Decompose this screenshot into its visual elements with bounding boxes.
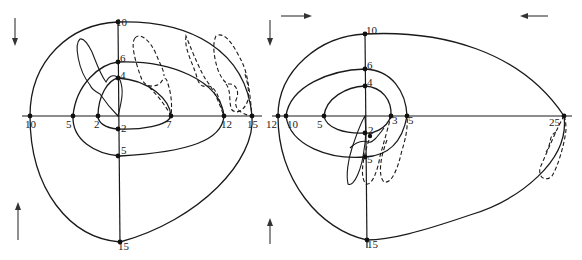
inner-isoline [98, 78, 171, 129]
label-h5-right: 5 [317, 118, 323, 130]
left-panel: 10 5 2 7 12 15 10 6 4 2 5 15 [12, 16, 262, 252]
right-panel: 12 10 5 3 5 25 10 6 4 2 5 15 [266, 13, 572, 250]
dashed-loop-1b [135, 36, 164, 76]
arrow-left-icon [520, 13, 548, 19]
inner-isoline-right [324, 86, 391, 133]
outer-isoline-right [278, 34, 564, 240]
dashed-loop-1 [133, 38, 171, 116]
label-v4: 4 [120, 69, 126, 81]
label-h10: 10 [25, 118, 37, 130]
label-v2-right: 2 [368, 124, 374, 136]
label-v6-right: 6 [367, 59, 373, 71]
label-v6: 6 [120, 52, 126, 64]
label-h12: 12 [221, 118, 232, 130]
diagram-canvas: 10 5 2 7 12 15 10 6 4 2 5 15 [0, 0, 582, 260]
arrow-down-icon [12, 18, 18, 46]
label-h7: 7 [166, 118, 172, 130]
label-v15-right: 15 [367, 238, 379, 250]
arrow-right-icon [281, 13, 312, 19]
label-h15: 15 [247, 118, 259, 130]
middle-isoline-right [286, 69, 407, 157]
label-h10-right: 10 [287, 118, 299, 130]
label-h3-right: 3 [392, 114, 398, 126]
marker-dots [28, 20, 255, 245]
label-h5b-right: 5 [408, 114, 414, 126]
arrow-up-icon-right [267, 218, 273, 244]
label-v2: 2 [121, 122, 127, 134]
arrow-up-icon [15, 202, 21, 240]
middle-isoline [73, 62, 224, 156]
marker-dots-right [276, 32, 567, 243]
label-v10-right: 10 [366, 24, 378, 36]
outer-isoline [30, 22, 252, 242]
label-v4-right: 4 [367, 76, 373, 88]
label-v5-right: 5 [367, 153, 373, 165]
label-h25-right: 25 [549, 116, 561, 128]
label-v10: 10 [116, 16, 128, 28]
label-v5: 5 [121, 144, 127, 156]
label-h2: 2 [94, 118, 100, 130]
arrow-down-icon-right [267, 20, 273, 46]
label-v15: 15 [118, 240, 130, 252]
label-h5: 5 [66, 118, 72, 130]
label-h12-right: 12 [266, 118, 277, 130]
